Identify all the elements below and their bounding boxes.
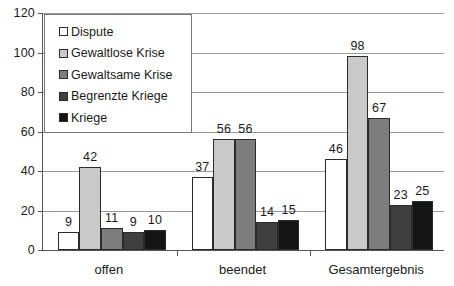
- bar-slot: 46: [325, 13, 347, 250]
- y-axis-tick-label: 40: [21, 164, 35, 178]
- legend-swatch-icon: [59, 49, 68, 58]
- bar[interactable]: [144, 230, 166, 250]
- legend-item[interactable]: Kriege: [45, 107, 191, 129]
- bar[interactable]: [123, 232, 145, 250]
- bar-value-label: 67: [372, 101, 386, 115]
- bar-value-label: 37: [195, 160, 209, 174]
- bar-value-label: 46: [329, 142, 343, 156]
- y-axis-tick-label: 20: [21, 204, 35, 218]
- bar[interactable]: [79, 167, 101, 250]
- bar[interactable]: [278, 220, 300, 250]
- bar[interactable]: [368, 118, 390, 250]
- bar-value-label: 42: [83, 150, 97, 164]
- bar[interactable]: [347, 56, 369, 250]
- legend-swatch-icon: [59, 113, 68, 122]
- bar[interactable]: [325, 159, 347, 250]
- legend-item[interactable]: Gewaltsame Krise: [45, 64, 191, 86]
- bar-chart: 020406080100120 942119103756561415469867…: [0, 0, 454, 286]
- bar-slot: 56: [235, 13, 257, 250]
- legend-label: Kriege: [71, 111, 107, 125]
- bar-group: 3756561415: [192, 13, 300, 250]
- bar[interactable]: [390, 205, 412, 250]
- legend-swatch-icon: [59, 27, 68, 36]
- y-axis-tick-label: 100: [14, 46, 35, 60]
- bar[interactable]: [192, 177, 214, 250]
- bar-value-label: 9: [130, 215, 137, 229]
- legend-swatch-icon: [59, 92, 68, 101]
- chart-legend: DisputeGewaltlose KriseGewaltsame KriseB…: [44, 14, 192, 133]
- y-axis-tick-label: 80: [21, 85, 35, 99]
- tick-mark: [38, 250, 43, 251]
- category-separator: [177, 250, 178, 256]
- bar-slot: 67: [368, 13, 390, 250]
- x-axis-category-label: beendet: [219, 262, 266, 277]
- bar-value-label: 15: [282, 203, 296, 217]
- bar[interactable]: [256, 222, 278, 250]
- bar-value-label: 10: [148, 213, 162, 227]
- x-axis-category-label: offen: [94, 262, 123, 277]
- bar[interactable]: [101, 228, 123, 250]
- bar-slot: 25: [412, 13, 434, 250]
- bar-slot: 37: [192, 13, 214, 250]
- y-axis-tick-label: 0: [28, 243, 35, 257]
- legend-item[interactable]: Begrenzte Kriege: [45, 86, 191, 108]
- legend-label: Dispute: [71, 25, 113, 39]
- legend-item[interactable]: Gewaltlose Krise: [45, 43, 191, 65]
- legend-label: Gewaltlose Krise: [71, 46, 165, 60]
- bar-value-label: 25: [415, 184, 429, 198]
- bar-group: 4698672325: [325, 13, 433, 250]
- y-axis-tick-label: 60: [21, 125, 35, 139]
- bar[interactable]: [213, 139, 235, 250]
- bar-value-label: 56: [217, 122, 231, 136]
- category-separator: [310, 250, 311, 256]
- bar[interactable]: [235, 139, 257, 250]
- legend-swatch-icon: [59, 70, 68, 79]
- legend-items: DisputeGewaltlose KriseGewaltsame KriseB…: [45, 21, 191, 129]
- bar-value-label: 14: [260, 205, 274, 219]
- bar-value-label: 11: [105, 211, 118, 225]
- bar-value-label: 98: [350, 39, 364, 53]
- bar-slot: 56: [213, 13, 235, 250]
- bar-slot: 15: [278, 13, 300, 250]
- legend-label: Begrenzte Kriege: [71, 89, 168, 103]
- bar-value-label: 23: [394, 188, 408, 202]
- bar-slot: 14: [256, 13, 278, 250]
- y-axis-tick-label: 120: [14, 6, 35, 20]
- bar-value-label: 56: [238, 122, 252, 136]
- bar-value-label: 9: [65, 215, 72, 229]
- bar-slot: 98: [347, 13, 369, 250]
- legend-item[interactable]: Dispute: [45, 21, 191, 43]
- x-axis-category-label: Gesamtergebnis: [328, 262, 423, 277]
- bar[interactable]: [58, 232, 80, 250]
- bar[interactable]: [412, 201, 434, 250]
- bar-slot: 23: [390, 13, 412, 250]
- legend-label: Gewaltsame Krise: [71, 68, 172, 82]
